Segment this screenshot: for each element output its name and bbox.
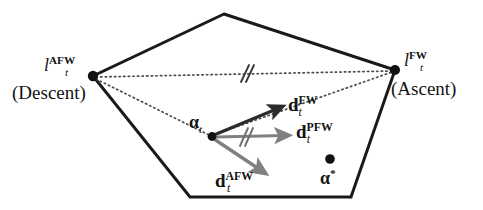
arrow-afw [214, 139, 262, 171]
optimum-label: α* [320, 168, 336, 187]
vertex-right-note: (Ascent) [391, 79, 456, 98]
vertex-left-note: (Descent) [12, 83, 86, 102]
alpha-star-dot [325, 154, 335, 164]
vertex-left-dot [88, 71, 98, 81]
alpha-t-dot [208, 132, 217, 141]
iterate-label: αt [189, 113, 202, 135]
direction-fw-label: dFWt [288, 95, 302, 119]
figure-canvas: lAFWt (Descent) lFWt (Ascent) αt dFWt dP… [0, 0, 483, 210]
vertex-left-label: lAFWt [44, 55, 68, 78]
direction-afw-label: dAFWt [215, 171, 230, 195]
vertex-right-label: lFWt [404, 50, 423, 73]
vertex-right-dot [390, 65, 400, 75]
direction-pfw-label: dPFWt [296, 122, 310, 146]
